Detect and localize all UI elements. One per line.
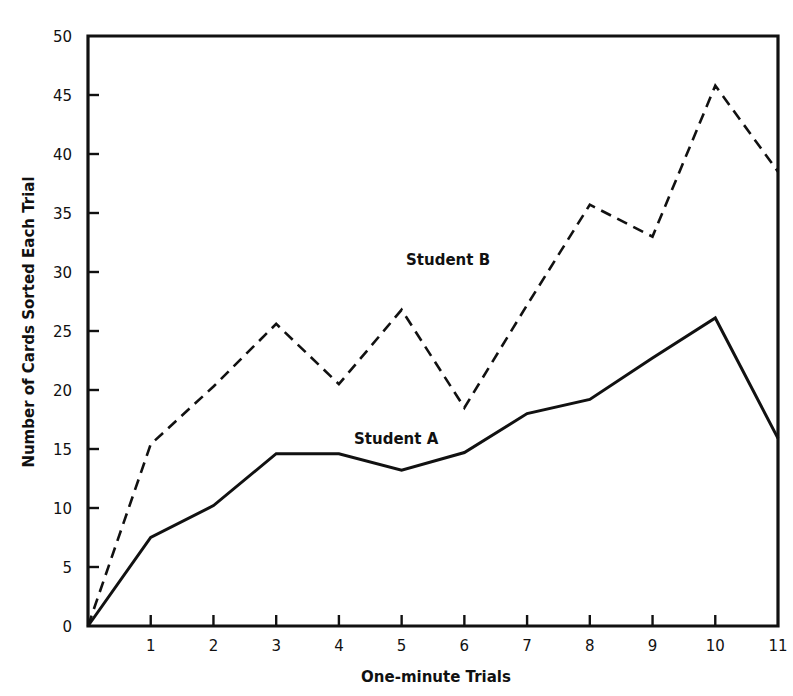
x-tick-label: 1: [146, 637, 156, 655]
y-axis-ticks: 05101520253035404550: [53, 28, 99, 636]
y-tick-label: 0: [62, 618, 72, 636]
series-line-student-b: [88, 86, 778, 626]
series-label-student-b: Student B: [406, 251, 490, 269]
plot-frame: [88, 36, 778, 626]
x-tick-label: 3: [271, 637, 281, 655]
x-tick-label: 4: [334, 637, 344, 655]
chart-canvas: 05101520253035404550 1234567891011 Numbe…: [0, 0, 793, 696]
y-tick-label: 30: [53, 264, 72, 282]
x-tick-label: 11: [768, 637, 787, 655]
y-tick-label: 10: [53, 500, 72, 518]
x-tick-label: 6: [460, 637, 470, 655]
y-tick-label: 35: [53, 205, 72, 223]
y-tick-label: 25: [53, 323, 72, 341]
x-axis-title: One-minute Trials: [361, 668, 511, 686]
x-tick-label: 7: [522, 637, 532, 655]
plot-border: [88, 36, 778, 626]
y-tick-label: 40: [53, 146, 72, 164]
y-tick-label: 15: [53, 441, 72, 459]
series-lines: [88, 86, 778, 626]
y-tick-label: 45: [53, 87, 72, 105]
y-axis-title: Number of Cards Sorted Each Trial: [20, 176, 38, 467]
x-axis-ticks: 1234567891011: [146, 615, 788, 655]
line-chart: 05101520253035404550 1234567891011 Numbe…: [0, 0, 793, 696]
x-tick-label: 9: [648, 637, 658, 655]
x-tick-label: 10: [706, 637, 725, 655]
x-tick-label: 5: [397, 637, 407, 655]
x-tick-label: 8: [585, 637, 595, 655]
x-tick-label: 2: [209, 637, 219, 655]
y-tick-label: 5: [62, 559, 72, 577]
y-tick-label: 50: [53, 28, 72, 46]
series-label-student-a: Student A: [354, 430, 439, 448]
y-tick-label: 20: [53, 382, 72, 400]
series-line-student-a: [88, 318, 778, 626]
